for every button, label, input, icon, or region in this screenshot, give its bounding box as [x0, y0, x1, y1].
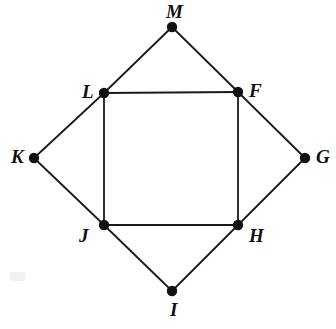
edge-gh — [238, 158, 305, 225]
vertex-label-j: J — [79, 226, 89, 245]
vertex-point-m — [167, 22, 177, 32]
vertex-label-f: F — [249, 81, 262, 100]
edge-hi — [172, 225, 238, 291]
edge-lm — [104, 27, 172, 93]
edge-mf — [172, 27, 238, 92]
vertex-label-l: L — [82, 82, 94, 101]
edge-kl — [34, 93, 104, 158]
geometry-figure: MLFKGJHI — [0, 0, 336, 329]
vertex-point-l — [99, 88, 109, 98]
vertex-point-f — [233, 87, 243, 97]
vertex-label-m: M — [166, 2, 183, 21]
edge-ij — [104, 225, 172, 291]
vertex-label-g: G — [316, 147, 330, 166]
vertex-label-i: I — [170, 300, 177, 319]
vertex-point-g — [300, 153, 310, 163]
vertex-point-k — [29, 153, 39, 163]
vertex-point-h — [233, 220, 243, 230]
edges-group — [34, 27, 305, 291]
geometry-canvas — [0, 0, 336, 329]
points-group — [29, 22, 310, 296]
edge-jk — [34, 158, 104, 225]
edge-fg — [238, 92, 305, 158]
vertex-label-h: H — [249, 226, 264, 245]
scan-smudge — [10, 272, 25, 281]
edge-lf — [104, 92, 238, 93]
vertex-point-j — [99, 220, 109, 230]
vertex-point-i — [167, 286, 177, 296]
vertex-label-k: K — [11, 147, 24, 166]
